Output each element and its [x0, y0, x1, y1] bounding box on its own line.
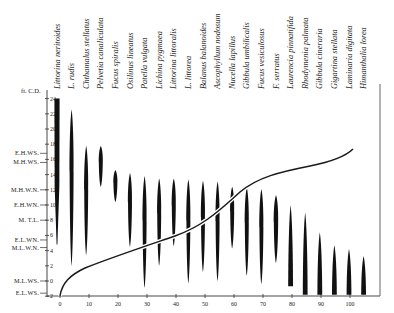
species-range-bar	[84, 146, 88, 255]
tide-level-label: M.H.WS.	[13, 158, 39, 165]
species-range-bar	[54, 99, 59, 245]
y-tick-label: 4	[50, 248, 53, 254]
species-label: Fucus spiralis	[111, 41, 120, 90]
species-range-bar	[317, 232, 322, 294]
species-label: Gibbula umbilicalis	[242, 22, 251, 89]
x-tick-label: 40	[173, 301, 179, 307]
species-range-bar	[361, 256, 366, 295]
tide-level-label: E.L.WS.	[16, 289, 39, 296]
species-label: L. rudis	[67, 63, 76, 90]
species-range-bar	[216, 181, 220, 281]
species-label: Himanthalia lorea	[359, 27, 368, 90]
species-range-bar	[201, 181, 205, 272]
cumulative-curve	[60, 149, 353, 296]
y-tick-label: 8	[50, 217, 53, 223]
species-range-bar	[245, 188, 249, 276]
species-label: Fucus vesiculosus	[257, 28, 266, 90]
y-axis-title: ft. C.D.	[21, 87, 41, 94]
species-label: Laminaria digitata	[345, 25, 354, 90]
species-label: Gibbula cineraria	[315, 28, 324, 89]
species-label: Lichina pygmaea	[155, 31, 164, 90]
species-range-bar	[288, 205, 293, 286]
species-range-bar	[70, 109, 74, 266]
x-tick-label: 30	[144, 301, 150, 307]
y-tick-label: 6	[50, 232, 53, 238]
species-label: Laurencia pinnatifida	[286, 16, 295, 90]
species-range-bar	[259, 189, 263, 284]
species-label: Osilinus lineatus	[126, 32, 135, 89]
x-tick-label: 10	[86, 301, 92, 307]
species-label: F. serratus	[272, 53, 281, 90]
x-tick-label: 20	[115, 301, 121, 307]
species-label: Patella vulgata	[140, 38, 149, 90]
species-range-bar	[143, 176, 147, 288]
species-range-bar	[303, 213, 308, 295]
x-tick-label: 90	[318, 301, 324, 307]
x-tick-label: 60	[231, 301, 237, 307]
species-label: Rhodymenia palmata	[301, 18, 310, 90]
species-label: Ascophyllum nodosum	[213, 13, 222, 90]
species-label: Balanus balanoides	[199, 23, 208, 89]
x-tick-label: 0	[59, 301, 62, 307]
x-tick-label: 80	[289, 301, 295, 307]
species-range-bar	[99, 146, 103, 187]
species-bars	[54, 99, 366, 295]
tide-level-label: M. T.L.	[19, 216, 40, 223]
zonation-diagram: ft. C.D. 2024681012141618202224 01020304…	[0, 0, 394, 313]
species-range-bar	[274, 195, 279, 263]
species-range-bar	[157, 178, 161, 265]
tide-level-label: M.L.W.N.	[12, 244, 39, 251]
species-label: Gigartina stellata	[330, 29, 339, 89]
species-label: Pelvetia canaliculata	[96, 18, 105, 90]
y-tick-label: 0	[50, 278, 53, 284]
species-range-bar	[332, 245, 337, 294]
species-label: Littorina littoralis	[169, 28, 178, 90]
tide-levels: E.H.WS.M.H.WS.M.H.W.N.E.H.WN.M. T.L.E.L.…	[11, 149, 47, 296]
x-tick-label: 100	[346, 301, 355, 307]
species-range-bar	[347, 249, 352, 295]
species-labels: Littorina neritoidesL. rudisChthamalus s…	[53, 13, 369, 90]
y-tick-label: 2	[50, 293, 53, 299]
tide-level-label: E.L.WN.	[15, 236, 40, 243]
species-label: Nucella lapillus	[228, 36, 237, 90]
y-tick-label: 10	[50, 202, 56, 208]
tide-level-label: M.H.W.N.	[11, 186, 39, 193]
x-tick-label: 50	[202, 301, 208, 307]
tide-level-label: M.L.WS.	[14, 277, 39, 284]
species-label: Chthamalus stellatus	[82, 19, 91, 90]
tide-level-label: E.H.WS.	[15, 149, 39, 156]
species-range-bar	[113, 170, 117, 202]
tide-level-label: E.H.WN.	[14, 201, 39, 208]
species-label: L. littorea	[184, 56, 193, 90]
species-range-bar	[128, 173, 132, 247]
cumulative-curve-line	[60, 149, 353, 296]
species-label: Littorina neritoides	[53, 24, 62, 90]
x-tick-label: 70	[260, 301, 266, 307]
y-tick-label: 2	[50, 263, 53, 269]
